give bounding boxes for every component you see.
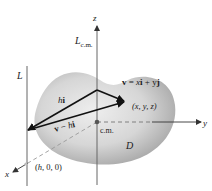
point-h00-label: (h, 0, 0) <box>35 162 62 172</box>
cm-dot <box>95 120 100 125</box>
line-L-label: L <box>16 70 23 81</box>
v-equation-label: v = xi + yj <box>122 77 160 87</box>
z-axis-label: z <box>92 13 97 23</box>
y-axis-label: y <box>202 118 207 128</box>
parallel-axis-diagram: z y x Lc.m. L v = xi + yj (x, y, z) hi v… <box>0 0 212 191</box>
cm-label: c.m. <box>100 126 114 135</box>
line-Lcm-label: Lc.m. <box>74 35 93 49</box>
point-h00-marker <box>24 162 27 165</box>
x-axis-label: x <box>4 169 9 179</box>
hi-label: hi <box>58 95 66 105</box>
region-d-label: D <box>125 140 134 151</box>
point-xyz-label: (x, y, z) <box>132 101 157 111</box>
